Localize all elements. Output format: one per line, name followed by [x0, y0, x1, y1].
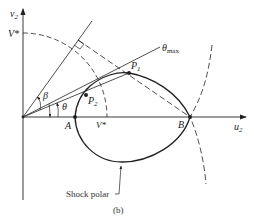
shock-polar-label: Shock polar [66, 189, 109, 199]
theta-angle-arc [57, 103, 58, 117]
figure-caption: (b) [113, 205, 124, 215]
point-b-label: B [178, 119, 184, 130]
shock-polar-diagram: v2 u2 V* V* A B P1 P2 β θ θmax Shock pol… [0, 0, 254, 221]
shock-polar-leader [115, 166, 121, 194]
p1-label: P1 [130, 60, 141, 73]
point-origin [22, 116, 25, 119]
beta-angle-arc [37, 97, 41, 110]
point-a [73, 115, 77, 119]
v2-axis-label: v2 [10, 8, 18, 21]
point-b [188, 115, 192, 119]
dashed-curve-through-b [190, 45, 212, 184]
beta-label: β [42, 90, 48, 101]
p2-label: P2 [87, 95, 98, 108]
point-a-label: A [64, 120, 72, 131]
vstar-vertical-label: V* [8, 28, 19, 39]
point-p1 [127, 71, 131, 75]
theta-label: θ [62, 101, 67, 112]
theta-max-label: θmax [162, 42, 179, 55]
vstar-horizontal-label: V* [96, 120, 106, 130]
u2-axis-label: u2 [234, 121, 243, 134]
